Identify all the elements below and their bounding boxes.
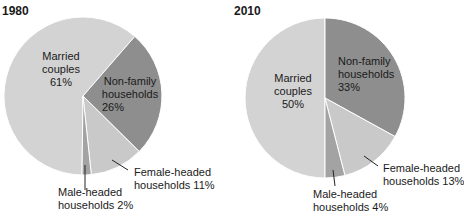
label-married: Marriedcouples61% <box>36 50 86 89</box>
label-non-family: Non-familyhouseholds33% <box>338 55 394 94</box>
label-female-headed: Female-headedhouseholds 13% <box>383 162 464 188</box>
label-male-headed: Male-headedhouseholds 4% <box>313 188 388 214</box>
label-female-headed: Female-headedhouseholds 11% <box>134 166 215 192</box>
label-married: Marriedcouples50% <box>267 72 319 111</box>
label-male-headed: Male-headedhouseholds 2% <box>58 186 133 212</box>
label-non-family: Non-familyhouseholds26% <box>100 75 160 114</box>
pie-chart-2010: 2010 Marriedcouples50% Non-familyhouseho… <box>231 0 463 217</box>
pie-chart-1980: 1980 Marriedcouples61% Non-familyhouseho… <box>0 0 232 217</box>
